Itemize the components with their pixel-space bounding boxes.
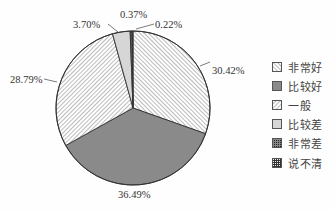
value-label: 30.42%	[212, 65, 245, 76]
legend-item-very-good: 非常好	[272, 57, 323, 76]
legend-label: 非常差	[288, 135, 323, 151]
value-label: 36.49%	[118, 189, 151, 200]
legend-label: 比较好	[288, 78, 323, 94]
cross-hatch-swatch-icon	[272, 138, 282, 148]
hatch-swatch-icon	[272, 62, 282, 72]
solid-gray-swatch-icon	[272, 81, 282, 91]
value-label: 0.37%	[120, 9, 147, 20]
light-gray-swatch-icon	[272, 119, 282, 129]
legend-item-good: 比较好	[272, 76, 323, 95]
value-label: 0.22%	[155, 19, 182, 30]
hatch-forward-swatch-icon	[272, 100, 282, 110]
legend-item-poor: 比较差	[272, 115, 323, 134]
legend: 非常好 比较好 一般 比较差 非常差 说不清	[272, 57, 323, 172]
legend-label: 一般	[288, 97, 311, 113]
grid-swatch-icon	[272, 158, 282, 168]
legend-label: 比较差	[288, 116, 323, 132]
legend-item-average: 一般	[272, 95, 323, 114]
legend-item-unsure: 说不清	[272, 153, 323, 172]
value-label: 3.70%	[73, 19, 100, 30]
pie-slices	[56, 31, 210, 185]
value-label: 28.79%	[10, 74, 43, 85]
legend-item-very-poor: 非常差	[272, 134, 323, 153]
legend-label: 非常好	[288, 59, 323, 75]
legend-label: 说不清	[288, 155, 323, 171]
